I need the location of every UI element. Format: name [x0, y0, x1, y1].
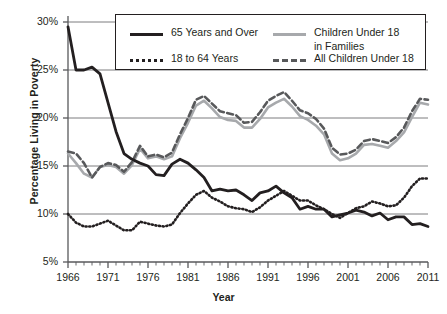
- legend-swatch-children-in-families: [273, 33, 306, 36]
- legend-label-children-in-families-line2: in Families: [314, 40, 364, 52]
- legend-swatch-18-to-64: [130, 59, 163, 62]
- legend-label-all-children: All Children Under 18: [314, 52, 414, 64]
- series-line: [68, 92, 428, 177]
- legend-label-children-in-families: Children Under 18: [314, 26, 399, 38]
- chart-legend: 65 Years and Over Children Under 18 in F…: [115, 14, 426, 70]
- legend-label-18-to-64: 18 to 64 Years: [171, 52, 238, 64]
- poverty-rate-line-chart: Percentage Living in Poverty Year 5%10%1…: [0, 0, 447, 314]
- legend-swatch-all-children: [273, 59, 306, 62]
- legend-swatch-65-and-over: [130, 33, 163, 36]
- series-line: [68, 178, 428, 230]
- legend-label-65-and-over: 65 Years and Over: [171, 26, 258, 38]
